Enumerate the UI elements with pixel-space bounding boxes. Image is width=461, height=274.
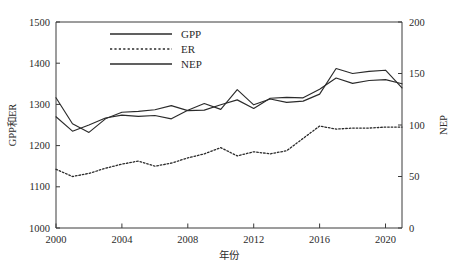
y-tick-label-left: 1300	[29, 99, 50, 110]
y-tick-label-left: 1000	[29, 223, 50, 234]
y-tick-label-right: 150	[409, 68, 425, 79]
legend-label-gpp: GPP	[181, 28, 201, 40]
legend-label-er: ER	[181, 43, 196, 55]
series-line-nep	[56, 69, 402, 132]
y-tick-label-left: 1200	[29, 140, 50, 151]
x-axis-title: 年份	[219, 249, 240, 261]
x-tick-label: 2000	[46, 234, 67, 245]
y-tick-label-right: 200	[409, 17, 425, 28]
y-tick-label-left: 1400	[29, 58, 50, 69]
x-tick-label: 2012	[243, 234, 264, 245]
y-axis-title-left: GPP和ER	[7, 104, 18, 147]
x-tick-label: 2016	[309, 234, 330, 245]
legend-label-nep: NEP	[181, 58, 202, 70]
y-tick-label-right: 0	[409, 223, 414, 234]
x-tick-label: 2004	[111, 234, 133, 245]
y-tick-label-right: 100	[409, 120, 425, 131]
series-line-er	[56, 126, 402, 176]
y-tick-label-left: 1100	[29, 181, 50, 192]
series-line-gpp	[56, 78, 402, 132]
x-tick-label: 2008	[177, 234, 198, 245]
figure-container: 1000110012001300140015000501001502002000…	[0, 0, 461, 274]
y-tick-label-right: 50	[409, 171, 420, 182]
y-axis-title-right: NEP	[438, 115, 449, 135]
y-tick-label-left: 1500	[29, 17, 50, 28]
x-tick-label: 2020	[375, 234, 396, 245]
dual-axis-line-chart: 1000110012001300140015000501001502002000…	[0, 0, 461, 274]
